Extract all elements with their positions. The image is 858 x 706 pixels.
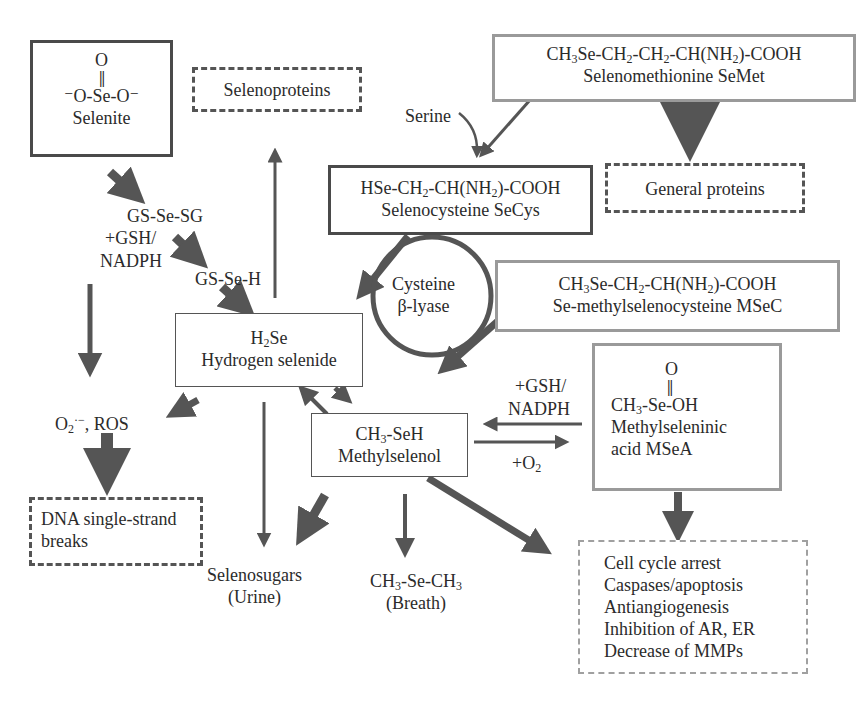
- effect-item: Caspases/apoptosis: [604, 574, 806, 596]
- secys-name: Selenocysteine SeCys: [331, 199, 590, 221]
- selenite-formula: ⁻O-Se-O⁻: [33, 85, 170, 107]
- hydrogen-selenide-box: H2Se Hydrogen selenide: [175, 313, 363, 387]
- selenomethionine-box: CH3Se-CH2-CH2-CH(NH2)-COOH Selenomethion…: [492, 34, 856, 102]
- selenite-oxygen: O: [33, 49, 170, 71]
- dna-breaks-line2: breaks: [41, 530, 200, 552]
- arrow-semet-to-secys: [484, 100, 530, 152]
- methylselenol-name: Methylselenol: [312, 445, 467, 467]
- arrow-selenite-to-gsseSG: [110, 172, 132, 192]
- methylselenol-formula: CH3-SeH: [312, 423, 467, 445]
- gs-se-sg-label: GS-Se-SG: [127, 205, 203, 227]
- dimethylselenide-label: CH3-Se-CH3 (Breath): [370, 570, 462, 614]
- msea-name-2: acid MSeA: [611, 438, 779, 460]
- effect-item: Inhibition of AR, ER: [604, 618, 806, 640]
- double-bond-icon: ||: [33, 71, 170, 85]
- semet-name: Selenomethionine SeMet: [495, 65, 853, 87]
- general-proteins-label: General proteins: [608, 178, 802, 200]
- gsh-nadph-left-1: +GSH/: [105, 227, 156, 249]
- selenoproteins-label: Selenoproteins: [195, 79, 359, 101]
- secys-formula: HSe-CH2-CH(NH2)-COOH: [331, 177, 590, 199]
- arrow-methylselenol-to-effects: [428, 478, 540, 547]
- gsh-nadph-right-1: +GSH/: [515, 375, 566, 397]
- effect-item: Antiangiogenesis: [604, 596, 806, 618]
- gsh-nadph-left-2: NADPH: [100, 250, 162, 272]
- double-bond-icon: ||: [611, 380, 779, 394]
- h2se-name: Hydrogen selenide: [176, 349, 362, 371]
- selenite-name: Selenite: [33, 107, 170, 129]
- msea-formula: CH3-Se-OH: [611, 394, 779, 416]
- arrow-methylselenol-to-h2se: [305, 392, 327, 414]
- selenocysteine-box: HSe-CH2-CH(NH2)-COOH Selenocysteine SeCy…: [328, 165, 593, 235]
- h2se-formula: H2Se: [176, 327, 362, 349]
- gs-se-h-label: GS-Se-H: [195, 268, 261, 290]
- methylselenocysteine-box: CH3Se-CH2-CH(NH2)-COOH Se-methylselenocy…: [495, 260, 840, 332]
- gsh-nadph-right-2: NADPH: [508, 398, 570, 420]
- ros-label: O2·−, ROS: [55, 413, 129, 435]
- semet-formula: CH3Se-CH2-CH2-CH(NH2)-COOH: [495, 43, 853, 65]
- msea-oxygen: O: [611, 358, 779, 380]
- anticancer-effects-box: Cell cycle arrest Caspases/apoptosis Ant…: [578, 540, 808, 674]
- arrow-h2se-to-ros: [178, 400, 198, 411]
- effect-item: Decrease of MMPs: [604, 640, 806, 662]
- selenite-box: O || ⁻O-Se-O⁻ Selenite: [30, 40, 173, 157]
- dna-breaks-box: DNA single-strand breaks: [29, 497, 203, 566]
- serine-label: Serine: [405, 105, 451, 127]
- cysteine-lyase-label: Cysteine β-lyase: [392, 273, 455, 317]
- general-proteins-box: General proteins: [605, 163, 805, 213]
- dna-breaks-line1: DNA single-strand: [41, 508, 200, 530]
- arrow-msec-to-methylselenol: [448, 321, 498, 365]
- msea-name-1: Methylseleninic: [611, 416, 779, 438]
- msec-name: Se-methylselenocysteine MSeC: [498, 295, 837, 317]
- arrow-h2se-to-methylselenol: [335, 388, 345, 397]
- methylselenol-box: CH3-SeH Methylselenol: [311, 413, 468, 477]
- effect-item: Cell cycle arrest: [604, 552, 806, 574]
- arrow-methylselenol-to-selenosugars: [305, 495, 325, 530]
- arrow-serine: [459, 113, 477, 152]
- selenosugars-label: Selenosugars (Urine): [207, 564, 302, 608]
- msec-formula: CH3Se-CH2-CH(NH2)-COOH: [498, 273, 837, 295]
- selenoproteins-box: Selenoproteins: [192, 67, 362, 112]
- arrow-gssesg-to-gsseh: [175, 237, 195, 256]
- methylseleninic-acid-box: O || CH3-Se-OH Methylseleninic acid MSeA: [592, 343, 782, 491]
- oxygen-label: +O2: [512, 452, 541, 474]
